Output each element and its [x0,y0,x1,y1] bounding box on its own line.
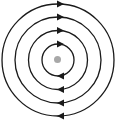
arrow-right-icon [57,1,64,8]
orbit-diagram [0,0,120,123]
arrow-left-icon [57,73,64,80]
arrow-left-icon [57,113,64,120]
arrow-right-icon [57,14,64,21]
center-dot [54,56,61,63]
arrow-left-icon [57,100,64,107]
arrow-right-icon [57,27,64,34]
arrow-left-icon [57,86,64,93]
arrow-right-icon [57,41,64,48]
diagram-canvas [0,0,120,123]
